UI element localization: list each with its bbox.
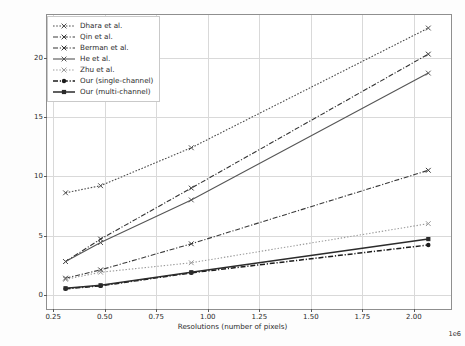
legend-item-berman-et-al[interactable]: Berman et al. [52,43,153,53]
legend-label: Our (single-channel) [80,76,153,86]
data-point-marker [63,286,67,290]
x-tick-mark [414,309,415,312]
legend-key-icon [52,54,76,64]
x-tick-mark [156,309,157,312]
legend-key-icon [52,87,76,97]
legend-label: He et al. [80,54,110,64]
execution-time-chart: 0.250.500.751.001.251.501.752.0005101520… [0,0,465,346]
legend-key-icon [52,76,76,86]
legend-key-icon [52,65,76,75]
x-tick-label: 2.00 [406,313,422,321]
data-point-marker [62,90,66,94]
data-point-marker [426,71,431,76]
legend-label: Dhara et al. [80,21,122,31]
data-point-marker [62,68,67,73]
x-tick-mark [53,309,54,312]
legend: Dhara et al.Qin et al.Berman et al.He et… [47,16,160,102]
series-our-multi-channel [63,237,430,290]
legend-item-qin-et-al[interactable]: Qin et al. [52,32,153,42]
x-tick-mark [105,309,106,312]
y-tick-label: 15 [34,113,43,121]
y-tick-mark [44,176,47,177]
x-tick-label: 0.50 [97,313,113,321]
series-zhu-et-al [63,221,431,282]
x-tick-label: 1.25 [252,313,268,321]
x-tick-label: 1.50 [303,313,319,321]
x-tick-mark [311,309,312,312]
x-tick-label: 0.75 [148,313,164,321]
series-qin-et-al [63,168,431,281]
data-point-marker [189,145,194,150]
series-line [66,170,429,278]
data-point-marker [98,183,103,188]
y-tick-label: 20 [34,54,43,62]
legend-label: Zhu et al. [80,65,115,75]
legend-item-zhu-et-al[interactable]: Zhu et al. [52,65,153,75]
data-point-marker [426,26,431,31]
x-axis-label: Resolutions (number of pixels) [178,322,288,331]
x-tick-label: 1.00 [200,313,216,321]
y-tick-label: 10 [34,172,43,180]
legend-label: Berman et al. [80,43,129,53]
y-tick-mark [44,295,47,296]
legend-key-icon [52,21,76,31]
legend-item-dhara-et-al[interactable]: Dhara et al. [52,21,153,31]
legend-key-icon [52,32,76,42]
series-our-single-channel [63,243,430,291]
data-point-marker [63,259,68,264]
y-tick-mark [44,236,47,237]
x-tick-label: 1.75 [355,313,371,321]
legend-item-he-et-al[interactable]: He et al. [52,54,153,64]
data-point-marker [98,240,103,245]
data-point-marker [189,186,194,191]
data-point-marker [98,283,102,287]
y-tick-label: 0 [39,291,43,299]
series-line [66,239,429,288]
legend-label: Our (multi-channel) [80,87,150,97]
y-tick-mark [44,117,47,118]
legend-item-our-single-channel[interactable]: Our (single-channel) [52,76,153,86]
x-axis-offset-text: 1e6 [449,330,461,338]
data-point-marker [62,79,66,83]
x-tick-label: 0.25 [45,313,61,321]
x-tick-mark [259,309,260,312]
y-tick-label: 5 [39,232,43,240]
data-point-marker [63,190,68,195]
data-point-marker [426,52,431,57]
data-point-marker [426,243,430,247]
x-tick-mark [362,309,363,312]
legend-key-icon [52,43,76,53]
x-tick-mark [208,309,209,312]
data-point-marker [189,270,193,274]
data-point-marker [62,24,67,29]
data-point-marker [189,198,194,203]
legend-item-our-multi-channel[interactable]: Our (multi-channel) [52,87,153,97]
data-point-marker [426,237,430,241]
legend-label: Qin et al. [80,32,113,42]
